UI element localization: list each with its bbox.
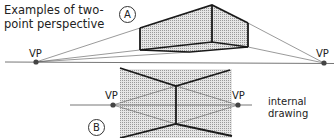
internal-drawing-note: internal drawing <box>268 96 308 120</box>
vanishing-point-dot <box>33 59 38 64</box>
horizon-line-a <box>5 62 334 64</box>
vp-label-a-left: VP <box>29 47 42 60</box>
note-line-1: internal <box>268 96 308 108</box>
box-right-face <box>212 5 248 47</box>
diagram-title: Examples of two- point perspective <box>4 3 104 31</box>
title-line-1: Examples of two- <box>4 3 104 17</box>
construction-line <box>248 23 324 63</box>
vanishing-point-dot <box>110 102 115 107</box>
vp-label-b-right: VP <box>232 89 245 102</box>
note-line-2: drawing <box>268 108 308 120</box>
construction-line <box>36 28 140 62</box>
vp-label-a-right: VP <box>316 47 329 60</box>
construction-line <box>248 47 324 63</box>
construction-line <box>36 52 190 62</box>
badge-b: B <box>88 119 105 136</box>
title-line-2: point perspective <box>4 17 104 31</box>
vanishing-point-dot <box>235 102 240 107</box>
vanishing-point-dot <box>321 60 326 65</box>
badge-a: A <box>119 6 136 23</box>
vp-label-b-left: VP <box>105 89 118 102</box>
